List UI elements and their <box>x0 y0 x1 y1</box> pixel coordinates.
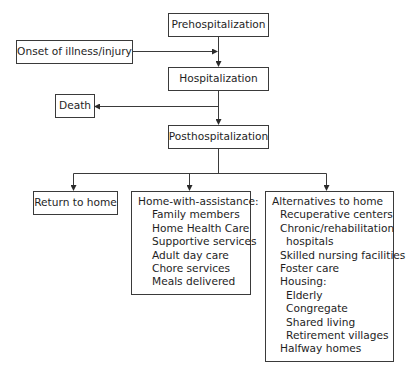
alternatives-to-home-node: Alternatives to home Recuperative center… <box>265 191 394 362</box>
list-item: Supportive services <box>138 235 250 248</box>
return-home-node: Return to home <box>33 191 118 215</box>
node-label: Posthospitalization <box>169 130 268 143</box>
node-title: Home-with-assistance: <box>138 195 250 208</box>
list-item: hospitals <box>272 235 393 248</box>
node-label: Prehospitalization <box>171 18 265 31</box>
list-item: Skilled nursing facilities <box>272 249 393 262</box>
list-item: Recuperative centers <box>272 208 393 221</box>
list-item: Chore services <box>138 262 250 275</box>
onset-node: Onset of illness/injury <box>16 40 133 64</box>
death-node: Death <box>55 94 95 118</box>
node-label: Return to home <box>34 196 117 209</box>
posthospitalization-node: Posthospitalization <box>168 125 269 149</box>
list-item: Halfway homes <box>272 342 393 355</box>
list-item: Meals delivered <box>138 275 250 288</box>
list-item: Shared living <box>272 316 393 329</box>
node-label: Death <box>59 99 91 112</box>
node-title: Alternatives to home <box>272 195 393 208</box>
list-item: Retirement villages <box>272 329 393 342</box>
list-item: Elderly <box>272 289 393 302</box>
node-label: Onset of illness/injury <box>17 45 132 58</box>
list-item: Foster care <box>272 262 393 275</box>
list-item: Chronic/rehabilitation <box>272 222 393 235</box>
prehospitalization-node: Prehospitalization <box>168 13 269 37</box>
list-item: Congregate <box>272 302 393 315</box>
node-label: Hospitalization <box>179 72 258 85</box>
home-with-assistance-node: Home-with-assistance: Family members Hom… <box>131 191 251 295</box>
list-item: Home Health Care <box>138 222 250 235</box>
list-item: Family members <box>138 208 250 221</box>
list-item: Adult day care <box>138 249 250 262</box>
list-item: Housing: <box>272 275 393 288</box>
hospitalization-node: Hospitalization <box>168 67 269 91</box>
